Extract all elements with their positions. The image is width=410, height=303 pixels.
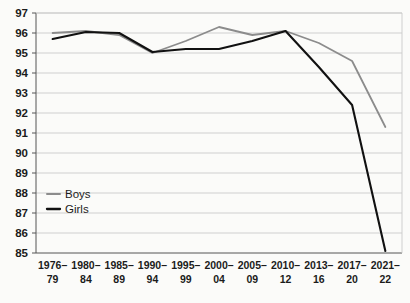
y-axis-tick-label: 97: [15, 7, 28, 19]
y-axis-tick-label: 91: [15, 127, 28, 139]
y-axis-tick-label: 94: [15, 67, 28, 79]
x-axis-tick-label: 16: [313, 273, 325, 285]
line-chart: 85868788899091929394959697 1976–791980–8…: [0, 0, 410, 303]
y-axis-ticks-group: [32, 13, 36, 253]
series-line-boys: [53, 27, 386, 127]
x-axis-tick-label: 2013–: [304, 259, 333, 271]
chart-legend: BoysGirls: [47, 188, 91, 215]
data-series-group: [53, 27, 386, 251]
x-axis-tick-label: 1990–: [138, 259, 167, 271]
x-axis-tick-label: 1995–: [171, 259, 200, 271]
x-axis-tick-label: 12: [280, 273, 292, 285]
x-axis-tick-label: 79: [47, 273, 59, 285]
y-axis-tick-label: 96: [15, 27, 28, 39]
y-axis-tick-label: 90: [15, 147, 28, 159]
y-axis-tick-label: 85: [15, 247, 28, 259]
x-axis-tick-label: 2000–: [204, 259, 233, 271]
y-axis-tick-label: 86: [15, 227, 28, 239]
y-axis-tick-label: 93: [15, 87, 28, 99]
legend-label-girls: Girls: [65, 203, 89, 215]
series-line-girls: [53, 31, 386, 251]
chart-plot-area: 85868788899091929394959697 1976–791980–8…: [0, 0, 410, 303]
y-axis-tick-label: 87: [15, 207, 28, 219]
x-axis-tick-label: 2005–: [238, 259, 267, 271]
x-axis-tick-label: 1980–: [71, 259, 100, 271]
y-axis-labels-group: 85868788899091929394959697: [15, 7, 28, 259]
y-axis-tick-label: 92: [15, 107, 28, 119]
y-axis-tick-label: 89: [15, 167, 28, 179]
x-axis-tick-label: 84: [80, 273, 92, 285]
x-axis-tick-label: 99: [180, 273, 192, 285]
legend-label-boys: Boys: [65, 188, 91, 200]
x-axis-tick-label: 20: [346, 273, 358, 285]
y-axis-tick-label: 95: [15, 47, 28, 59]
gridlines-group: [36, 13, 402, 233]
x-axis-labels-group: 1976–791980–841985–891990–941995–992000–…: [38, 259, 400, 285]
x-axis-tick-label: 1985–: [105, 259, 134, 271]
y-axis-tick-label: 88: [15, 187, 28, 199]
x-axis-tick-label: 09: [246, 273, 258, 285]
x-axis-tick-label: 89: [113, 273, 125, 285]
x-axis-tick-label: 2017–: [337, 259, 366, 271]
x-axis-tick-label: 04: [213, 273, 225, 285]
x-axis-tick-label: 1976–: [38, 259, 67, 271]
x-axis-tick-label: 22: [380, 273, 392, 285]
x-axis-tick-label: 2021–: [371, 259, 400, 271]
x-axis-tick-label: 2010–: [271, 259, 300, 271]
x-axis-tick-label: 94: [147, 273, 159, 285]
